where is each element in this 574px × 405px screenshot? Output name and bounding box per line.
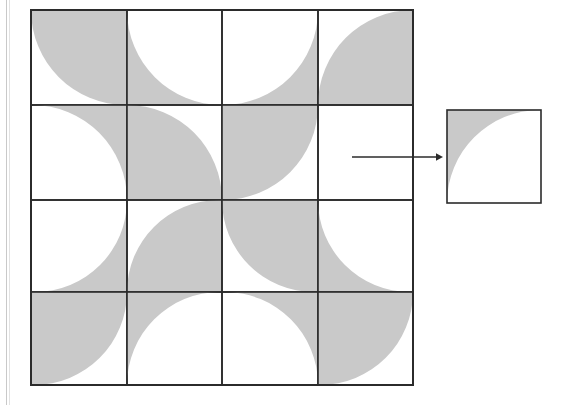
tile-r2c4[interactable] bbox=[318, 105, 413, 200]
tile-r4c1[interactable] bbox=[31, 292, 127, 385]
arrow-head-icon bbox=[436, 153, 443, 160]
tile-r1c1[interactable] bbox=[31, 10, 127, 105]
tile-r4c4[interactable] bbox=[318, 292, 413, 385]
tile-r2c1[interactable] bbox=[31, 105, 127, 200]
unit-tile[interactable] bbox=[447, 110, 541, 203]
tiling-illustration bbox=[0, 0, 574, 405]
tile-r1c4[interactable] bbox=[318, 10, 413, 105]
tile-r3c4[interactable] bbox=[318, 200, 413, 292]
tile-r3c3[interactable] bbox=[222, 200, 318, 292]
tiling-grid[interactable] bbox=[31, 10, 413, 385]
tile-r2c3[interactable] bbox=[222, 105, 318, 200]
tile-r3c1[interactable] bbox=[31, 200, 127, 292]
tile-r3c2[interactable] bbox=[127, 200, 222, 292]
arrow-annotation bbox=[352, 153, 443, 160]
tile-r2c2[interactable] bbox=[127, 105, 222, 200]
tile-r1c2[interactable] bbox=[127, 10, 222, 105]
tile-r1c3[interactable] bbox=[222, 10, 318, 105]
figure-canvas: Quarter-disc tiling pattern with extract… bbox=[0, 0, 574, 405]
unit-tile-group[interactable] bbox=[447, 110, 541, 203]
tile-r4c3[interactable] bbox=[222, 292, 318, 385]
tile-r4c2[interactable] bbox=[127, 292, 222, 385]
